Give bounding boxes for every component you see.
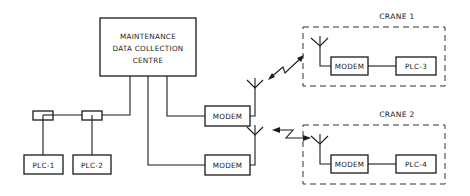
crane-1-modem-label: MODEM — [335, 62, 365, 71]
maintenance-network-diagram: MAINTENANCE DATA COLLECTION CENTRE PLC-1… — [0, 0, 470, 196]
base-modem-1-label: MODEM — [213, 112, 243, 121]
crane-1: CRANE 1 MODEM PLC-3 — [303, 12, 445, 86]
base-modem-1: MODEM — [205, 86, 255, 126]
antenna-icon — [247, 78, 263, 88]
crane-1-plc-label: PLC-3 — [405, 62, 427, 71]
centre-label-line-2: DATA COLLECTION — [112, 44, 183, 53]
base-modem-2: MODEM — [205, 134, 255, 175]
centre-connections — [43, 76, 205, 165]
crane-2-modem-label: MODEM — [335, 160, 365, 169]
plc-2-label: PLC-2 — [81, 161, 103, 170]
crane-1-title: CRANE 1 — [379, 12, 415, 21]
crane-1-plc: PLC-3 — [396, 57, 436, 75]
local-plc-network: PLC-1 PLC-2 — [24, 111, 111, 174]
antenna-icon — [311, 134, 328, 144]
maintenance-data-collection-centre: MAINTENANCE DATA COLLECTION CENTRE — [100, 18, 196, 76]
crane-2-plc-label: PLC-4 — [405, 160, 427, 169]
centre-label-line-1: MAINTENANCE — [120, 32, 176, 41]
antenna-icon — [311, 36, 328, 46]
crane-2-plc: PLC-4 — [396, 155, 436, 173]
wireless-link-crane-2-icon — [272, 127, 311, 141]
centre-label-line-3: CENTRE — [133, 56, 164, 65]
plc-2: PLC-2 — [73, 155, 111, 174]
wireless-link-crane-1-icon — [268, 55, 304, 80]
base-modem-2-label: MODEM — [213, 161, 243, 170]
crane-2-modem: MODEM — [331, 155, 368, 173]
plc-1: PLC-1 — [24, 155, 63, 174]
crane-2: CRANE 2 MODEM PLC-4 — [303, 110, 445, 184]
crane-2-title: CRANE 2 — [379, 110, 415, 119]
crane-1-modem: MODEM — [331, 57, 368, 75]
plc-1-label: PLC-1 — [32, 161, 54, 170]
